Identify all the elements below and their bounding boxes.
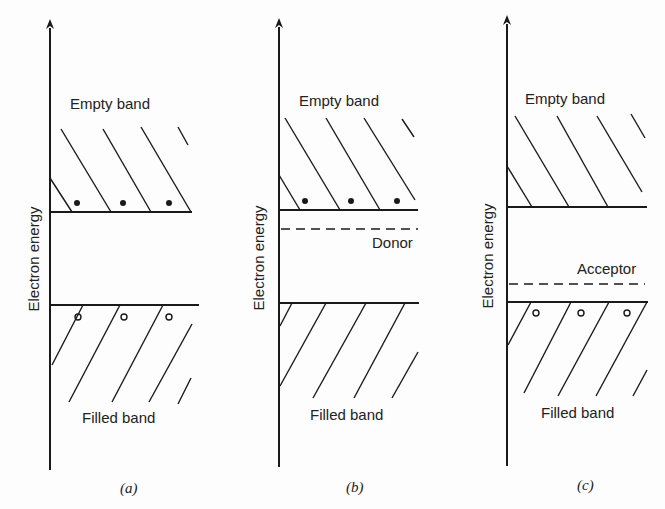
- empty-band-hatch: [507, 114, 645, 207]
- electrons: [74, 200, 172, 206]
- panel-c: Electron energy Empty band Acceptor Fill…: [479, 24, 648, 494]
- panel-caption-c: (c): [577, 477, 594, 494]
- band-diagram-figure: Electron energy Empty band: [0, 0, 665, 509]
- filled-band-label: Filled band: [310, 406, 383, 423]
- filled-band-label: Filled band: [541, 404, 614, 421]
- filled-band-label: Filled band: [82, 409, 155, 426]
- electrons: [302, 198, 400, 204]
- empty-band-label: Empty band: [70, 95, 150, 112]
- acceptor-label: Acceptor: [577, 260, 636, 277]
- filled-band-hatch: [280, 303, 418, 398]
- panel-a: Electron energy Empty band: [25, 28, 199, 497]
- axis-label: Electron energy: [250, 205, 267, 311]
- empty-band-hatch: [50, 127, 191, 212]
- panel-caption-b: (b): [346, 479, 364, 496]
- donor-label: Donor: [372, 234, 413, 251]
- axis-label: Electron energy: [479, 203, 496, 309]
- axis-label: Electron energy: [25, 206, 42, 312]
- holes: [533, 310, 630, 316]
- empty-band-label: Empty band: [299, 92, 379, 109]
- panel-caption-a: (a): [120, 480, 138, 497]
- empty-band-hatch: [279, 118, 415, 210]
- empty-band-label: Empty band: [525, 90, 605, 107]
- panel-b: Electron energy Empty band Donor Filled …: [250, 27, 419, 496]
